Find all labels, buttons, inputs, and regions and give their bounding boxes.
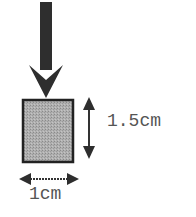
force-arrow-icon <box>29 2 63 98</box>
height-label: 1.5cm <box>107 111 161 131</box>
height-dimension-arrow-icon <box>83 97 95 159</box>
width-label: 1cm <box>29 184 61 204</box>
block <box>23 100 73 162</box>
